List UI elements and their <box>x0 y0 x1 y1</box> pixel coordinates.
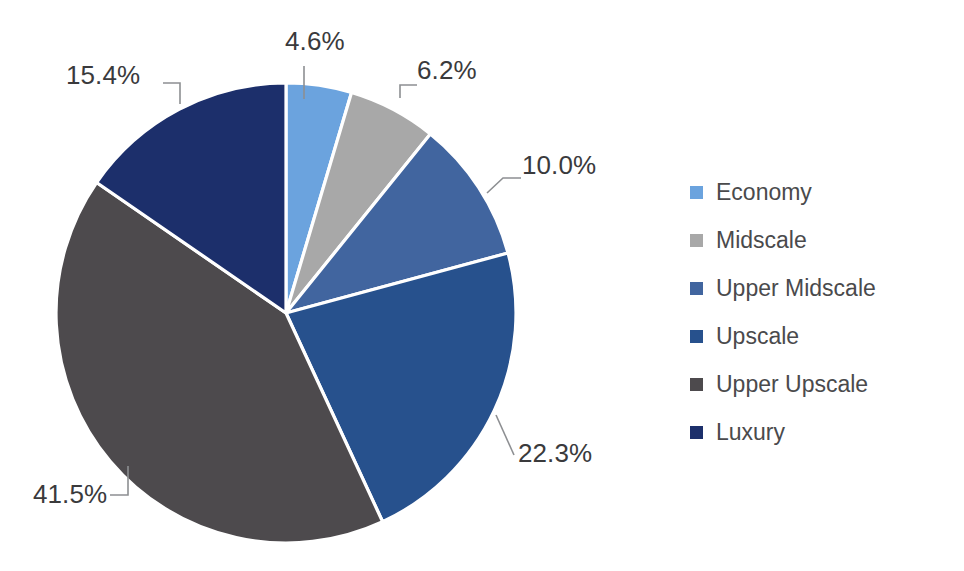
legend-item-luxury[interactable]: Luxury <box>690 408 956 456</box>
legend-item-upscale[interactable]: Upscale <box>690 312 956 360</box>
pie-slice-group <box>56 83 516 543</box>
leader-line-upscale <box>496 415 514 455</box>
legend-item-upper-upscale[interactable]: Upper Upscale <box>690 360 956 408</box>
legend-item-economy[interactable]: Economy <box>690 168 956 216</box>
legend-item-midscale[interactable]: Midscale <box>690 216 956 264</box>
legend-swatch-upper-upscale <box>690 378 703 391</box>
legend-swatch-upper-midscale <box>690 282 703 295</box>
legend-label-economy: Economy <box>716 181 812 204</box>
data-label-economy: 4.6% <box>285 28 345 54</box>
leader-line-upper-midscale <box>487 178 521 193</box>
data-label-upper-upscale: 41.5% <box>33 481 107 507</box>
legend-swatch-economy <box>690 186 703 199</box>
legend-swatch-upscale <box>690 330 703 343</box>
legend-swatch-midscale <box>690 234 703 247</box>
chart-legend: EconomyMidscaleUpper MidscaleUpscaleUppe… <box>690 168 956 456</box>
legend-label-midscale: Midscale <box>716 229 807 252</box>
leader-line-midscale <box>400 85 417 98</box>
legend-label-upper-midscale: Upper Midscale <box>716 277 876 300</box>
legend-swatch-luxury <box>690 426 703 439</box>
legend-label-upscale: Upscale <box>716 325 799 348</box>
pie-chart: 4.6% 6.2% 10.0% 22.3% 41.5% 15.4% Econom… <box>0 0 964 571</box>
data-label-luxury: 15.4% <box>66 62 140 88</box>
legend-label-luxury: Luxury <box>716 421 785 444</box>
leader-line-luxury <box>163 83 180 104</box>
data-label-upper-midscale: 10.0% <box>522 152 596 178</box>
legend-item-upper-midscale[interactable]: Upper Midscale <box>690 264 956 312</box>
data-label-upscale: 22.3% <box>518 440 592 466</box>
legend-label-upper-upscale: Upper Upscale <box>716 373 868 396</box>
data-label-midscale: 6.2% <box>417 57 477 83</box>
